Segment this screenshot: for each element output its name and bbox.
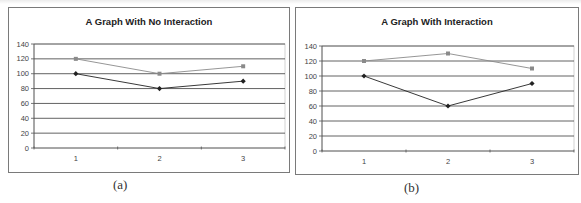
- plot-area: [34, 44, 285, 148]
- series-line: [76, 59, 243, 74]
- diamond-marker-icon: [529, 81, 534, 86]
- chart-plot: 020406080100120140123: [9, 8, 291, 174]
- y-tick-label: 60: [309, 102, 317, 111]
- chart-with-interaction: A Graph With Interaction 020406080100120…: [295, 7, 579, 175]
- y-tick-label: 0: [313, 147, 317, 156]
- diamond-marker-icon: [361, 73, 366, 78]
- square-marker-icon: [362, 59, 366, 63]
- x-tick-label: 3: [530, 157, 534, 166]
- x-tick-label: 1: [362, 157, 366, 166]
- figure-caption-a: (a): [113, 177, 127, 193]
- y-tick-label: 140: [16, 40, 29, 49]
- cropped-text-strip: [0, 0, 581, 4]
- square-marker-icon: [158, 72, 162, 76]
- square-marker-icon: [446, 52, 450, 56]
- y-tick-label: 40: [309, 117, 317, 126]
- x-tick-label: 1: [74, 154, 78, 163]
- y-tick-label: 60: [21, 99, 29, 108]
- diamond-marker-icon: [241, 79, 246, 84]
- square-marker-icon: [530, 67, 534, 71]
- square-marker-icon: [74, 57, 78, 61]
- plot-area: [322, 46, 574, 151]
- chart-plot: 020406080100120140123: [296, 8, 580, 176]
- diamond-marker-icon: [73, 71, 78, 76]
- y-tick-label: 100: [304, 72, 317, 81]
- y-tick-label: 0: [25, 144, 29, 153]
- x-tick-label: 3: [241, 154, 245, 163]
- diamond-marker-icon: [445, 103, 450, 108]
- chart-no-interaction: A Graph With No Interaction 020406080100…: [8, 7, 290, 173]
- figure-caption-b: (b): [404, 180, 419, 196]
- x-tick-label: 2: [157, 154, 161, 163]
- y-tick-label: 100: [16, 69, 29, 78]
- y-tick-label: 20: [309, 132, 317, 141]
- y-tick-label: 120: [16, 54, 29, 63]
- square-marker-icon: [241, 64, 245, 68]
- y-tick-label: 20: [21, 129, 29, 138]
- x-tick-label: 2: [446, 157, 450, 166]
- y-tick-label: 140: [304, 42, 317, 51]
- y-tick-label: 40: [21, 114, 29, 123]
- diamond-marker-icon: [157, 86, 162, 91]
- y-tick-label: 80: [309, 87, 317, 96]
- y-tick-label: 120: [304, 57, 317, 66]
- y-tick-label: 80: [21, 84, 29, 93]
